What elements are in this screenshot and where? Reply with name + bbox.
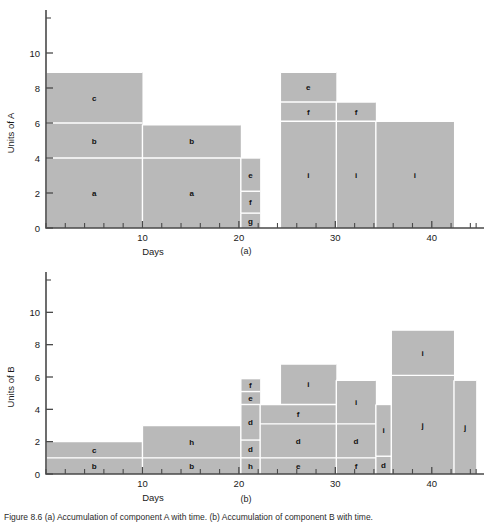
block-label: d <box>296 437 301 446</box>
block-label: h <box>248 462 253 471</box>
block-label: f <box>307 108 310 117</box>
chart-b-svg: bcbhhddefedfifdidijij102030400246810Days… <box>0 262 492 512</box>
block-label: i <box>307 171 309 180</box>
chart-a-svg: abcabgfeifeifi102030400246810DaysUnits o… <box>0 0 492 262</box>
block-label: i <box>422 349 424 358</box>
figure-page: abcabgfeifeifi102030400246810DaysUnits o… <box>0 0 492 524</box>
y-tick-label: 4 <box>35 404 40 415</box>
block-label: f <box>355 108 358 117</box>
y-tick-label: 2 <box>35 188 40 199</box>
block-label: e <box>248 394 253 403</box>
block-label: d <box>248 418 253 427</box>
block-label: b <box>189 137 194 146</box>
block-label: i <box>355 171 357 180</box>
block-label: e <box>306 83 311 92</box>
block-label: b <box>92 462 97 471</box>
x-tick-label: 40 <box>426 478 437 489</box>
y-tick-label: 0 <box>35 223 40 234</box>
block-label: c <box>92 446 97 455</box>
y-tick-label: 2 <box>35 436 40 447</box>
block-label: i <box>355 398 357 407</box>
block-label: g <box>248 217 253 226</box>
y-tick-label: 6 <box>35 118 40 129</box>
block-label: d <box>248 445 253 454</box>
block-label: a <box>92 189 97 198</box>
block-label: f <box>297 410 300 419</box>
block-label: c <box>92 94 97 103</box>
block-label: d <box>354 437 359 446</box>
chart-b-panel: bcbhhddefedfifdidijij102030400246810Days… <box>0 262 492 512</box>
y-tick-label: 6 <box>35 372 40 383</box>
y-tick-label: 0 <box>35 469 40 480</box>
y-tick-label: 8 <box>35 83 40 94</box>
block-label: e <box>248 171 253 180</box>
x-tick-label: 20 <box>234 232 245 243</box>
block-label: f <box>355 462 358 471</box>
block-label: i <box>307 380 309 389</box>
y-axis-title: Units of B <box>5 366 16 407</box>
x-tick-label: 30 <box>330 478 341 489</box>
x-tick-label: 20 <box>234 478 245 489</box>
x-tick-label: 10 <box>137 232 148 243</box>
x-axis-title: Days <box>142 492 164 503</box>
subcaption-b: (b) <box>241 494 252 504</box>
x-tick-label: 40 <box>426 232 437 243</box>
block-label: f <box>249 381 252 390</box>
block-label: i <box>382 426 384 435</box>
block-label: b <box>92 137 97 146</box>
y-axis-title: Units of A <box>5 112 16 153</box>
block-label: a <box>189 189 194 198</box>
x-tick-label: 10 <box>137 478 148 489</box>
x-tick-label: 30 <box>330 232 341 243</box>
block-label: j <box>421 421 424 430</box>
subcaption-a: (a) <box>241 246 252 256</box>
y-tick-label: 10 <box>29 48 40 59</box>
y-tick-label: 10 <box>29 307 40 318</box>
x-axis-title: Days <box>142 246 164 257</box>
y-tick-label: 8 <box>35 339 40 350</box>
block-label: b <box>189 462 194 471</box>
y-tick-label: 4 <box>35 153 40 164</box>
block-label: j <box>463 423 466 432</box>
blocks-group <box>46 330 476 474</box>
chart-a-panel: abcabgfeifeifi102030400246810DaysUnits o… <box>0 0 492 262</box>
figure-caption: Figure 8.6 (a) Accumulation of component… <box>4 512 490 523</box>
block-label: f <box>249 198 252 207</box>
block-label: i <box>414 171 416 180</box>
block-label: d <box>381 461 386 470</box>
block-label: h <box>189 438 194 447</box>
